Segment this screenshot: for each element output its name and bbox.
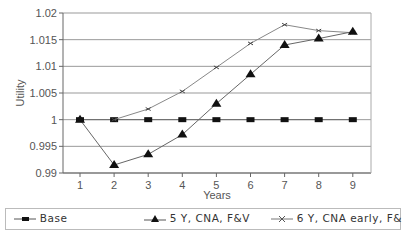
x-tick-label: 7: [282, 179, 288, 191]
square-marker-icon: [315, 117, 323, 122]
x-tick-label: 4: [179, 179, 185, 191]
x-tick-label: 6: [247, 179, 253, 191]
square-marker-icon: [144, 117, 152, 122]
y-tick-label: 1.005: [29, 87, 57, 99]
x-marker-icon: [180, 90, 185, 93]
x-tick-label: 1: [77, 179, 83, 191]
line-chart: 0.990.99511.0051.011.0151.02123456789Yea…: [0, 0, 411, 205]
y-tick-label: 1.01: [36, 60, 57, 72]
x-tick-label: 2: [111, 179, 117, 191]
y-axis-label: Utility: [14, 79, 26, 106]
square-marker-icon: [349, 117, 357, 122]
legend-label-6y: 6 Y, CNA early, F&: [297, 212, 402, 224]
square-marker-icon: [212, 117, 220, 122]
legend-item-5y: 5 Y, CNA, F&V: [144, 212, 250, 224]
square-marker-icon: [247, 117, 255, 122]
triangle-marker-icon: [348, 27, 358, 35]
square-marker-icon: [178, 117, 186, 122]
y-tick-label: 1.015: [29, 34, 57, 46]
legend-item-base: Base: [14, 212, 67, 224]
square-marker-icon: [14, 214, 36, 224]
y-tick-label: 1: [51, 114, 57, 126]
y-tick-label: 0.995: [29, 140, 57, 152]
legend-label-5y: 5 Y, CNA, F&V: [170, 212, 250, 224]
series-line: [80, 32, 353, 165]
x-tick-label: 9: [350, 179, 356, 191]
triangle-marker-icon: [143, 149, 153, 157]
y-tick-label: 0.99: [36, 167, 57, 179]
square-marker-icon: [281, 117, 289, 122]
x-tick-label: 8: [316, 179, 322, 191]
x-tick-label: 3: [145, 179, 151, 191]
x-axis-label: Years: [203, 189, 231, 201]
triangle-marker-icon: [246, 69, 256, 77]
x-marker-icon: [271, 214, 293, 224]
triangle-marker-icon: [211, 99, 221, 107]
triangle-marker-icon: [144, 214, 166, 224]
legend-label-base: Base: [40, 212, 68, 224]
x-marker-icon: [146, 108, 151, 111]
y-tick-label: 1.02: [36, 7, 57, 19]
legend: Base 5 Y, CNA, F&V 6 Y, CNA early, F&: [5, 208, 401, 230]
legend-item-6y: 6 Y, CNA early, F&: [271, 212, 402, 224]
x-marker-icon: [248, 42, 253, 45]
